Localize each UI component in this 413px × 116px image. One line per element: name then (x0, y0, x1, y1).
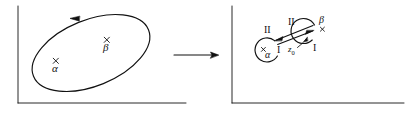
right-label-beta: β (319, 15, 324, 25)
right-label-alpha: α (265, 50, 270, 60)
connector-I-arrowhead (305, 31, 313, 35)
cross-markers (53, 27, 324, 63)
connector-II-arrowhead (275, 37, 283, 41)
left-panel-axes (18, 6, 186, 103)
original-contour-ellipse (21, 0, 161, 107)
transform-arrow (174, 52, 219, 58)
left-label-beta: β (103, 42, 108, 53)
figure-svg (0, 0, 413, 116)
contour-direction-arrowhead (70, 16, 80, 21)
path-label-two-left: II (264, 25, 271, 35)
basepoint-z0-label: z0 (288, 45, 295, 56)
path-label-two-right: II (288, 17, 295, 27)
path-label-one-left: I (277, 45, 280, 55)
basepoint-subscript: 0 (292, 49, 295, 56)
left-label-alpha: α (52, 63, 58, 74)
basepoint-pointer-arrowhead (304, 37, 308, 42)
right-panel-axes (232, 6, 404, 103)
path-label-one-right: I (313, 43, 316, 53)
figure-canvas: α β α β II II I I z0 (0, 0, 413, 116)
